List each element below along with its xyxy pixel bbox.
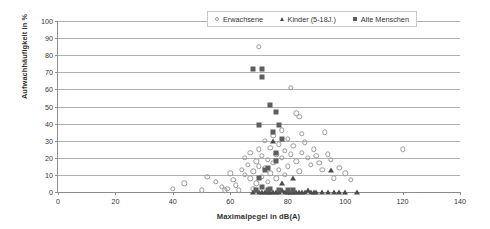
data-point-alte-menschen bbox=[291, 188, 296, 193]
y-tick-label: 60 bbox=[45, 85, 53, 94]
y-tick-label: 90 bbox=[45, 34, 53, 43]
y-tick-mark bbox=[55, 107, 58, 108]
data-point-alte-menschen bbox=[259, 66, 264, 71]
y-tick-label: 50 bbox=[45, 102, 53, 111]
data-point-kinder-5-18j bbox=[328, 167, 334, 172]
data-point-alte-menschen bbox=[254, 188, 259, 193]
data-point-kinder-5-18j bbox=[342, 190, 348, 195]
y-tick-mark bbox=[55, 158, 58, 159]
plot-area: 0102030405060708090100 02040608010012014… bbox=[57, 21, 460, 193]
data-point-alte-menschen bbox=[251, 66, 256, 71]
x-tick-label: 0 bbox=[56, 197, 60, 206]
legend-item-erwachsene[interactable]: Erwachsene bbox=[215, 15, 263, 24]
y-tick-label: 20 bbox=[45, 153, 53, 162]
data-point-kinder-5-18j bbox=[279, 181, 285, 186]
data-point-erwachsene bbox=[236, 188, 241, 193]
data-point-kinder-5-18j bbox=[270, 138, 276, 143]
y-tick-label: 80 bbox=[45, 51, 53, 60]
x-tick-mark bbox=[230, 192, 231, 195]
x-tick-mark bbox=[115, 192, 116, 195]
x-tick-label: 80 bbox=[284, 197, 292, 206]
chart-legend: Erwachsene Kinder (5-18J.) Alte Menschen bbox=[207, 11, 417, 27]
legend-label-alte-menschen: Alte Menschen bbox=[361, 15, 409, 24]
data-point-alte-menschen bbox=[268, 102, 273, 107]
y-tick-mark bbox=[55, 21, 58, 22]
legend-item-alte-menschen[interactable]: Alte Menschen bbox=[353, 15, 409, 24]
y-tick-mark bbox=[55, 55, 58, 56]
y-axis-title: Aufwachhäufigkeit in % bbox=[20, 0, 29, 137]
data-point-kinder-5-18j bbox=[354, 190, 360, 195]
y-tick-label: 30 bbox=[45, 136, 53, 145]
x-tick-label: 140 bbox=[454, 197, 466, 206]
data-point-alte-menschen bbox=[274, 150, 279, 155]
x-tick-mark bbox=[460, 192, 461, 195]
scatter-chart: Aufwachhäufigkeit in % Maximalpegel in d… bbox=[0, 0, 490, 229]
y-tick-label: 100 bbox=[41, 17, 53, 26]
data-point-kinder-5-18j bbox=[290, 176, 296, 181]
data-point-alte-menschen bbox=[277, 188, 282, 193]
data-point-alte-menschen bbox=[285, 188, 290, 193]
x-tick-label: 120 bbox=[397, 197, 409, 206]
legend-item-kinder[interactable]: Kinder (5-18J.) bbox=[280, 15, 336, 24]
data-point-alte-menschen bbox=[277, 123, 282, 128]
legend-label-erwachsene: Erwachsene bbox=[223, 15, 263, 24]
gridline bbox=[58, 55, 460, 56]
open-circle-icon bbox=[215, 17, 219, 21]
y-tick-mark bbox=[55, 72, 58, 73]
y-tick-mark bbox=[55, 175, 58, 176]
y-tick-label: 10 bbox=[45, 170, 53, 179]
x-tick-label: 40 bbox=[169, 197, 177, 206]
gridline bbox=[58, 107, 460, 108]
x-axis-title: Maximalpegel in dB(A) bbox=[57, 212, 460, 221]
gridline bbox=[58, 38, 460, 39]
data-point-alte-menschen bbox=[259, 184, 264, 189]
data-point-alte-menschen bbox=[259, 75, 264, 80]
y-tick-mark bbox=[55, 38, 58, 39]
data-point-alte-menschen bbox=[257, 176, 262, 181]
x-tick-label: 60 bbox=[226, 197, 234, 206]
y-tick-label: 70 bbox=[45, 68, 53, 77]
x-tick-mark bbox=[58, 192, 59, 195]
data-point-alte-menschen bbox=[265, 188, 270, 193]
filled-triangle-icon bbox=[280, 17, 284, 21]
data-point-alte-menschen bbox=[274, 159, 279, 164]
data-point-alte-menschen bbox=[274, 109, 279, 114]
filled-square-icon bbox=[353, 17, 357, 21]
y-tick-label: 0 bbox=[49, 188, 53, 197]
data-point-alte-menschen bbox=[257, 123, 262, 128]
data-point-alte-menschen bbox=[279, 136, 284, 141]
x-tick-label: 20 bbox=[111, 197, 119, 206]
data-point-alte-menschen bbox=[262, 167, 267, 172]
legend-label-kinder: Kinder (5-18J.) bbox=[288, 15, 336, 24]
gridline bbox=[58, 158, 460, 159]
gridline bbox=[58, 72, 460, 73]
x-tick-mark bbox=[173, 192, 174, 195]
data-point-alte-menschen bbox=[271, 130, 276, 135]
y-tick-label: 40 bbox=[45, 119, 53, 128]
y-tick-mark bbox=[55, 141, 58, 142]
data-point-erwachsene bbox=[199, 188, 204, 193]
x-tick-label: 100 bbox=[339, 197, 351, 206]
gridline bbox=[58, 141, 460, 142]
y-tick-mark bbox=[55, 124, 58, 125]
y-tick-mark bbox=[55, 89, 58, 90]
x-tick-mark bbox=[403, 192, 404, 195]
gridline bbox=[58, 89, 460, 90]
